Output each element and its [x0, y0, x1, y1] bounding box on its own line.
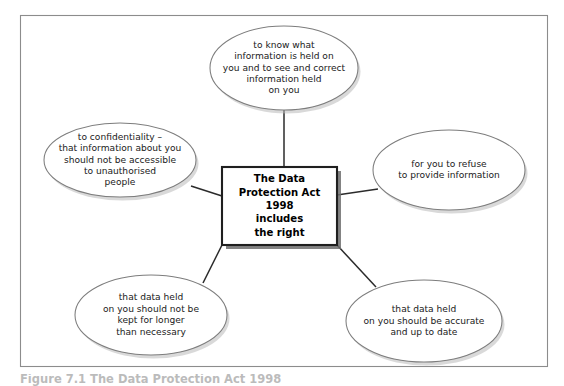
figure-container: to know whatinformation is held onyou an…	[0, 0, 564, 386]
figure-caption-strip: Figure 7.1 The Data Protection Act 1998	[20, 374, 440, 386]
node-text-line: The Data	[254, 173, 305, 184]
node-text-line: that data held	[119, 292, 183, 302]
node-text-line: on you should not be	[103, 304, 199, 314]
mind-map-diagram: to know whatinformation is held onyou an…	[0, 0, 564, 386]
node-text-line: should not be accessible	[64, 155, 177, 165]
node-text-line: 1998	[265, 200, 293, 211]
node-text-line: than necessary	[116, 327, 186, 337]
node-text-line: to know what	[253, 40, 315, 50]
node-text-line: on you should be accurate	[364, 316, 485, 326]
node-text-line: on you	[269, 85, 300, 95]
node-text-line: that data held	[392, 304, 456, 314]
node-text-line: information is held on	[234, 51, 333, 61]
node-text-line: to unauthorised	[84, 166, 156, 176]
node-text-line: you and to see and correct	[223, 63, 346, 73]
node-text-line: information held	[246, 74, 321, 84]
node-text-line: includes	[256, 213, 303, 224]
node-text-line: kept for longer	[117, 315, 184, 325]
node-text-line: Protection Act	[239, 187, 321, 198]
node-text-line: that information about you	[59, 143, 182, 153]
node-text-line: to provide information	[398, 170, 500, 180]
center-node: The DataProtection Act1998includesthe ri…	[222, 167, 341, 249]
node-text-line: people	[105, 177, 136, 187]
node-text-line: the right	[254, 227, 304, 238]
node-text-line: to confidentiality –	[78, 132, 163, 142]
node-text-line: and up to date	[391, 327, 458, 337]
data-protection-act-box[interactable]: The DataProtection Act1998includesthe ri…	[222, 167, 341, 249]
node-text-line: for you to refuse	[411, 159, 487, 169]
figure-caption: Figure 7.1 The Data Protection Act 1998	[20, 374, 281, 385]
